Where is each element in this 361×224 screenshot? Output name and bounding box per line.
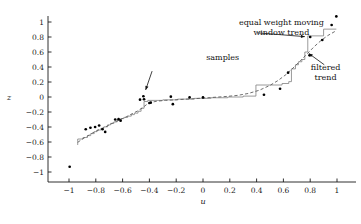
sample-point xyxy=(119,119,122,122)
x-tick-label: −0.2 xyxy=(167,186,185,195)
annotation-label: trend xyxy=(315,73,337,82)
sample-point xyxy=(89,126,92,129)
sample-point xyxy=(169,95,172,98)
y-tick-label: −0.2 xyxy=(26,108,44,117)
sample-point xyxy=(202,96,205,99)
sample-point xyxy=(335,15,338,18)
sample-point xyxy=(94,126,97,129)
x-tick-label: 0 xyxy=(201,186,206,195)
sample-point xyxy=(149,101,152,104)
samples-group xyxy=(68,15,337,168)
annotation-label: equal weight moving xyxy=(239,18,324,27)
x-axis-label: u xyxy=(200,197,205,206)
x-tick-label: −0.8 xyxy=(87,186,105,195)
sample-point xyxy=(68,165,71,168)
x-tick-label: 0.6 xyxy=(277,186,289,195)
y-tick-label: −0.6 xyxy=(26,138,44,147)
y-tick-label: −0.4 xyxy=(26,123,44,132)
y-tick-label: −1 xyxy=(33,168,44,177)
annotation-label: filtered xyxy=(311,63,341,72)
sample-point xyxy=(330,24,333,27)
x-tick-label: 1 xyxy=(335,186,340,195)
sample-point xyxy=(321,39,324,42)
y-tick-label: 0 xyxy=(39,93,44,102)
step-trend-line xyxy=(78,29,337,145)
annotation-arrow-head xyxy=(145,86,148,90)
y-tick-label: 1 xyxy=(39,18,44,27)
sample-point xyxy=(172,103,175,106)
sample-point xyxy=(263,93,266,96)
sample-point xyxy=(139,98,142,101)
filtered-trend-line xyxy=(78,31,337,143)
sample-point xyxy=(188,96,191,99)
sample-point xyxy=(142,95,145,98)
x-tick-label: 0.4 xyxy=(251,186,263,195)
sample-point xyxy=(101,128,104,131)
x-tick-label: −0.6 xyxy=(113,186,131,195)
sample-point xyxy=(104,131,107,134)
sample-point xyxy=(84,128,87,131)
y-tick-label: 0.4 xyxy=(32,63,44,72)
sample-point xyxy=(143,98,146,101)
sample-point xyxy=(114,118,117,121)
chart-figure: 10.80.60.40.20−0.2−0.4−0.6−0.8−1−1−0.8−0… xyxy=(0,0,361,224)
x-tick-label: 0.8 xyxy=(304,186,316,195)
x-tick-label: −1 xyxy=(63,186,74,195)
y-tick-label: 0.2 xyxy=(32,78,44,87)
sample-point xyxy=(98,124,101,127)
sample-point xyxy=(287,71,290,74)
x-tick-label: −0.4 xyxy=(140,186,158,195)
y-tick-label: −0.8 xyxy=(26,153,44,162)
y-tick-label: 0.6 xyxy=(32,48,44,57)
y-tick-label: 0.8 xyxy=(32,33,44,42)
sample-point xyxy=(279,87,282,90)
x-tick-label: 0.2 xyxy=(224,186,236,195)
y-axis-label: z xyxy=(6,93,12,102)
chart-canvas: 10.80.60.40.20−0.2−0.4−0.6−0.8−1−1−0.8−0… xyxy=(0,0,361,224)
annotation-label: samples xyxy=(206,53,239,62)
